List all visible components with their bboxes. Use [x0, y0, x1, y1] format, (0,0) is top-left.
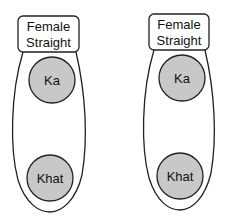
- node-khat-right-label: Khat: [167, 169, 194, 184]
- group-right-header-line2: Straight: [157, 33, 202, 48]
- node-khat-left-label: Khat: [37, 171, 64, 186]
- group-right: Female Straight Ka Khat: [144, 14, 215, 210]
- node-ka-right-label: Ka: [174, 71, 191, 86]
- group-left-header-line2: Straight: [26, 35, 71, 50]
- group-left-header-line1: Female: [27, 19, 70, 34]
- group-right-header-line1: Female: [157, 17, 200, 32]
- diagram-canvas: Female Straight Ka Khat Female Straight …: [0, 0, 226, 222]
- group-left: Female Straight Ka Khat: [13, 16, 86, 212]
- node-ka-left-label: Ka: [44, 73, 61, 88]
